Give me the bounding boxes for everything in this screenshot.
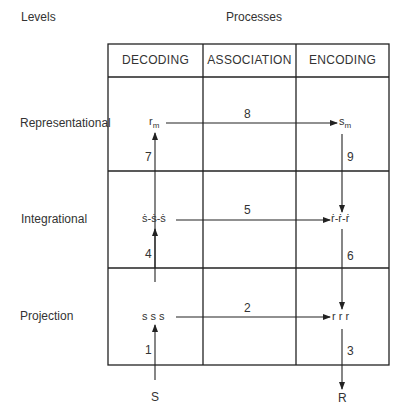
column-header-decoding: DECODING — [108, 44, 203, 77]
level-projection: Projection — [20, 309, 73, 323]
arrow-label-9: 9 — [347, 150, 354, 164]
node-stimulus: S — [151, 390, 159, 404]
level-representational: Representational — [20, 116, 111, 130]
node-rrr: r r r — [332, 310, 349, 322]
arrow-label-7: 7 — [145, 150, 152, 164]
node-sm: sm — [339, 115, 351, 130]
node-response: R — [338, 391, 347, 405]
column-header-association: ASSOCIATION — [203, 44, 296, 77]
level-integrational: Integrational — [21, 212, 87, 226]
arrow-label-4: 4 — [145, 247, 152, 261]
arrow-label-5: 5 — [244, 203, 251, 217]
column-header-encoding: ENCODING — [296, 44, 389, 77]
arrow-label-1: 1 — [145, 343, 152, 357]
arrow-label-3: 3 — [347, 344, 354, 358]
arrow-label-2: 2 — [244, 301, 251, 315]
node-s-dot-seq: ṡ-ṡ-ṡ — [142, 212, 166, 224]
arrow-label-8: 8 — [244, 107, 251, 121]
node-r-dot-seq: ṙ-ṙ-ṙ — [331, 212, 349, 224]
arrow-label-6: 6 — [347, 249, 354, 263]
node-rm: rm — [149, 115, 159, 130]
node-sss: s s s — [142, 310, 165, 322]
